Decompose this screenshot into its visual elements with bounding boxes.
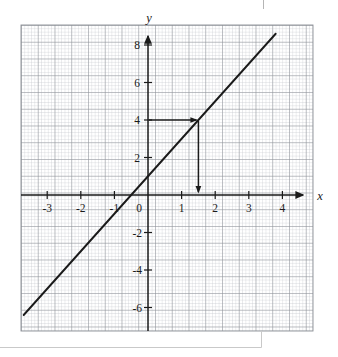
x-tick-label: -1 — [110, 202, 120, 214]
y-tick-label: 6 — [134, 77, 140, 89]
coordinate-graph: x y -3-2-11234 0 8642-2-4-6 — [0, 0, 338, 357]
y-tick-label: 4 — [134, 114, 140, 126]
x-tick-label: -2 — [76, 202, 86, 214]
y-tick-label: 2 — [134, 152, 140, 164]
y-tick-label: -4 — [132, 264, 142, 276]
origin-label: 0 — [136, 202, 142, 214]
x-tick-label: 4 — [280, 202, 286, 214]
y-tick-label: 8 — [134, 39, 140, 51]
y-tick-label: -2 — [132, 227, 142, 239]
axis-label-x: x — [316, 189, 323, 203]
y-tick-label: -6 — [132, 302, 142, 314]
x-tick-label: 3 — [246, 202, 252, 214]
figure-canvas: x y -3-2-11234 0 8642-2-4-6 — [0, 0, 338, 357]
x-tick-label: 1 — [179, 202, 185, 214]
grid-paper — [21, 25, 313, 331]
x-tick-label: 2 — [212, 202, 218, 214]
axis-label-y: y — [144, 11, 152, 25]
x-tick-label: -3 — [42, 202, 52, 214]
